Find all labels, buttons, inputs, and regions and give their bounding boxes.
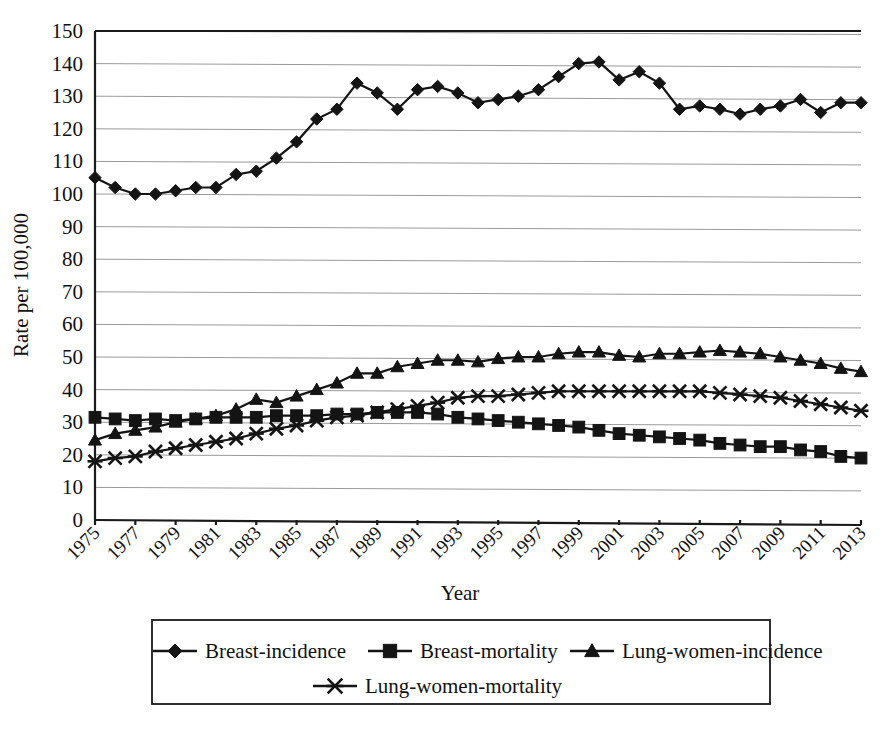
gridline [95,259,861,263]
data-point-square [573,421,585,433]
x-tick-label: 1975 [62,522,104,564]
data-point-square [815,446,827,458]
y-axis-title: Rate per 100,000 [9,213,33,357]
data-point-square [694,434,706,446]
data-point-square [835,451,847,463]
data-point-cross [672,385,687,398]
data-point-cross [269,422,284,435]
y-tick-label: 70 [62,280,83,304]
data-point-square [89,411,101,423]
legend-label: Lung-women-incidence [622,639,823,663]
data-point-square [452,411,464,423]
data-point-cross [632,385,647,398]
data-point-square [674,433,686,445]
data-point-square [593,424,605,436]
data-point-diamond [734,108,746,120]
data-point-diamond [754,103,766,115]
y-tick-label: 150 [52,19,84,43]
data-point-cross [591,385,606,398]
data-point-square [553,420,565,432]
data-point-cross [128,450,143,463]
data-point-diamond [855,97,867,109]
y-tick-label: 40 [62,378,83,402]
x-tick-label: 2009 [747,522,789,564]
x-tick-label: 2003 [627,522,669,564]
data-point-square [472,413,484,425]
y-tick-label: 140 [52,52,84,76]
legend-label: Breast-mortality [420,639,558,663]
x-tick-label: 1977 [102,522,144,564]
legend-item-lung-women-mortality[interactable]: Lung-women-mortality [313,674,563,698]
data-point-square [774,441,786,453]
legend-item-lung-women-incidence[interactable]: Lung-women-incidence [570,639,823,663]
data-point-square [271,410,283,422]
data-point-square [109,413,121,425]
legend-label: Lung-women-mortality [365,674,563,698]
x-tick-label: 1991 [385,522,427,564]
y-tick-label: 90 [62,215,83,239]
x-axis-title: Year [441,581,480,605]
data-point-cross [450,391,465,404]
legend-item-breast-incidence[interactable]: Breast-incidence [153,639,346,663]
data-point-diamond [694,100,706,112]
y-tick-label: 50 [62,345,83,369]
data-point-diamond [168,644,182,658]
data-point-cross [733,388,748,401]
data-point-cross [753,390,768,403]
y-tick-label: 80 [62,247,83,271]
data-point-cross [652,385,667,398]
data-point-triangle [230,403,243,414]
data-point-square [512,416,524,428]
data-point-cross [531,386,546,399]
x-tick-label: 2001 [586,522,628,564]
data-point-cross [168,442,183,455]
data-point-diamond [250,165,262,177]
x-tick-label: 1979 [143,522,185,564]
gridline [95,292,861,296]
y-axis-tick-labels: 0102030405060708090100110120130140150 [52,19,84,532]
data-point-square [533,418,545,430]
data-point-diamond [532,83,544,95]
x-tick-label: 2011 [788,522,829,563]
data-point-cross [327,679,344,694]
chart-container: 0102030405060708090100110120130140150 19… [0,0,886,729]
data-point-square [855,452,867,464]
gridline [95,161,861,165]
data-point-square [714,438,726,450]
data-point-square [492,415,504,427]
x-tick-label: 1985 [264,522,306,564]
series-breast-incidence [89,56,867,200]
data-point-cross [188,439,203,452]
data-point-diamond [835,97,847,109]
data-point-cross [229,432,244,445]
data-point-cross [692,385,707,398]
y-tick-label: 30 [62,410,83,434]
y-tick-label: 100 [52,182,84,206]
data-point-diamond [89,172,101,184]
y-tick-label: 130 [52,84,84,108]
y-tick-label: 120 [52,117,84,141]
data-point-diamond [794,93,806,105]
data-point-cross [249,427,264,440]
data-point-diamond [492,93,504,105]
data-point-square [754,441,766,453]
gridline [95,129,861,133]
data-point-diamond [149,188,161,200]
data-point-cross [208,435,223,448]
y-tick-label: 60 [62,312,83,336]
data-point-square [654,431,666,443]
gridline [95,194,861,198]
data-point-cross [108,452,123,465]
x-axis-tick-labels: 1975197719791981198319851987198919911993… [62,520,870,564]
x-tick-label: 2007 [707,522,749,564]
data-point-diamond [573,57,585,69]
gridline [95,64,861,68]
legend-item-breast-mortality[interactable]: Breast-mortality [368,639,558,663]
x-tick-label: 1999 [546,522,588,564]
data-point-square [383,644,396,657]
data-point-cross [571,385,586,398]
gridline [95,324,861,328]
x-tick-label: 1995 [465,522,507,564]
data-point-triangle [713,344,726,355]
legend-items: Breast-incidenceBreast-mortalityLung-wom… [153,639,823,698]
